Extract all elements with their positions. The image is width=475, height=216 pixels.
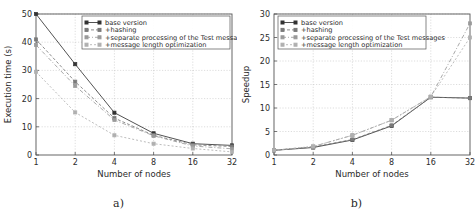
svg-text:20: 20	[260, 57, 270, 66]
svg-text:1: 1	[271, 158, 276, 167]
svg-text:2: 2	[311, 158, 316, 167]
chart-panel-b: 05101520253012481632Number of nodesSpeed…	[238, 0, 475, 216]
svg-text:Execution time (s): Execution time (s)	[3, 46, 13, 123]
svg-text:16: 16	[188, 158, 198, 167]
panel-b-caption: b)	[238, 197, 475, 210]
execution-time-chart: 0102030405012481632Number of nodesExecut…	[0, 0, 237, 190]
svg-text:40: 40	[22, 38, 32, 47]
svg-text:25: 25	[260, 34, 270, 43]
svg-text:10: 10	[22, 123, 32, 132]
svg-text:15: 15	[260, 81, 270, 90]
svg-text:+message length optimization: +message length optimization	[105, 41, 206, 49]
svg-text:50: 50	[22, 10, 32, 19]
svg-text:4: 4	[112, 158, 117, 167]
svg-text:16: 16	[426, 158, 436, 167]
figure-container: 0102030405012481632Number of nodesExecut…	[0, 0, 475, 216]
svg-text:4: 4	[350, 158, 355, 167]
speedup-chart: 05101520253012481632Number of nodesSpeed…	[238, 0, 475, 190]
svg-text:0: 0	[27, 151, 32, 160]
panel-a-caption: a)	[0, 197, 237, 210]
svg-text:32: 32	[227, 158, 237, 167]
svg-text:+message length optimization: +message length optimization	[301, 41, 402, 49]
svg-text:30: 30	[22, 66, 32, 75]
svg-text:20: 20	[22, 95, 32, 104]
svg-text:30: 30	[260, 10, 270, 19]
svg-text:0: 0	[265, 151, 270, 160]
svg-text:Number of nodes: Number of nodes	[335, 169, 409, 179]
svg-text:10: 10	[260, 104, 270, 113]
svg-text:32: 32	[465, 158, 475, 167]
svg-text:Speedup: Speedup	[241, 66, 251, 103]
svg-text:8: 8	[151, 158, 156, 167]
chart-panel-a: 0102030405012481632Number of nodesExecut…	[0, 0, 237, 216]
svg-text:5: 5	[265, 128, 270, 137]
svg-text:2: 2	[73, 158, 78, 167]
svg-text:1: 1	[33, 158, 38, 167]
svg-text:8: 8	[389, 158, 394, 167]
svg-text:Number of nodes: Number of nodes	[97, 169, 171, 179]
